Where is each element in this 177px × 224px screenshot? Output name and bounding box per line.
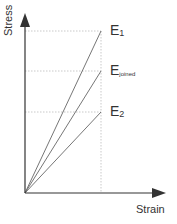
line-ejoined [25, 71, 101, 193]
x-axis-label: Strain [136, 203, 165, 215]
x-axis-arrow-icon [152, 188, 166, 198]
y-axis-arrow-icon [20, 13, 30, 27]
y-axis-label: Stress [2, 5, 14, 36]
line-e1 [25, 31, 101, 193]
label-e2: E2 [110, 104, 124, 120]
label-ejoined: Ejoined [110, 63, 135, 80]
stress-strain-diagram [0, 0, 177, 224]
line-e2 [25, 112, 101, 193]
modulus-lines [25, 31, 101, 193]
axes [25, 24, 156, 193]
label-e1: E1 [110, 23, 124, 39]
